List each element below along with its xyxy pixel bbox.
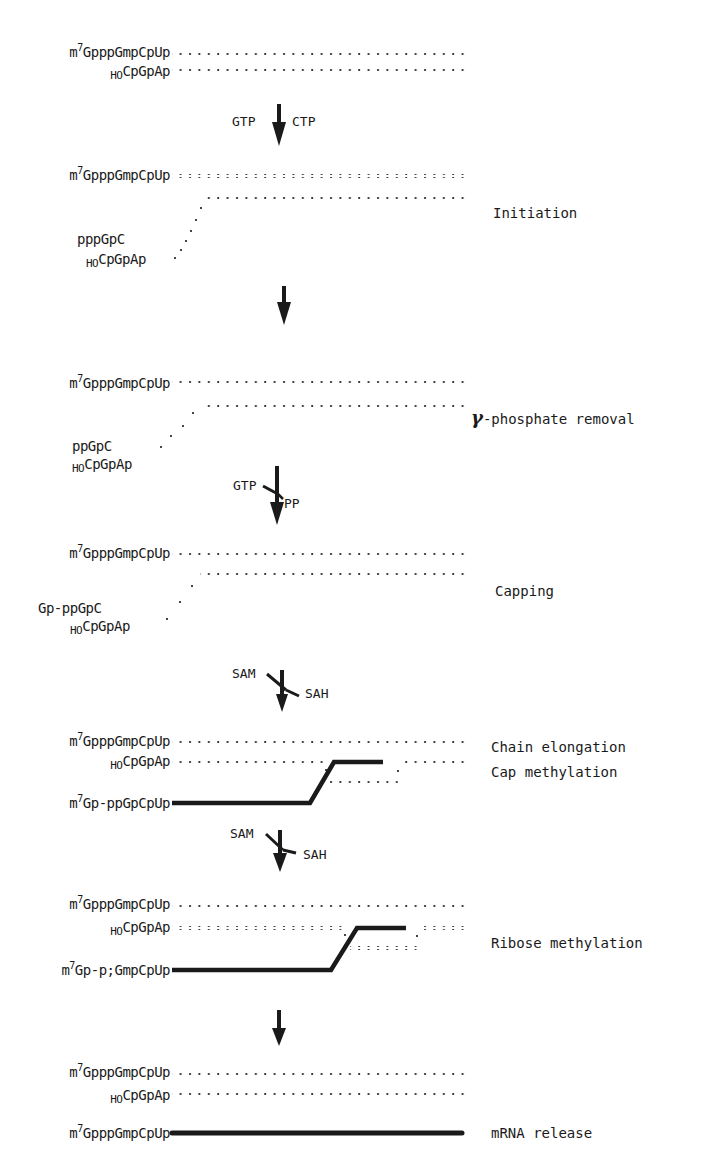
nascent-dots — [200, 573, 468, 577]
step-label-capping: Capping — [495, 583, 554, 599]
released-mrna-label: m7GpppGmpCpUp — [69, 1125, 170, 1143]
step-label-chain-elongation: Chain elongation — [491, 739, 626, 755]
template-strand-label: m7GpppGmpCpUp — [69, 44, 170, 62]
primer-label: HOCpGpAp — [110, 919, 170, 937]
primer-dots — [172, 760, 324, 764]
step-label-gamma-phosphate-removal: γ-phosphate removal — [471, 410, 635, 427]
nascent-rna-label: Gp-ppGpC — [38, 600, 101, 616]
product-strand-label: m7Gp-p;GmpCpUp — [61, 962, 170, 980]
template-strand-label: m7GpppGmpCpUp — [69, 733, 170, 751]
template-strand-dots — [172, 740, 468, 744]
template-strand-label: m7GpppGmpCpUp — [69, 1064, 170, 1082]
down-arrow-icon — [272, 1010, 286, 1046]
down-arrow-icon — [277, 286, 291, 325]
primer-label: HOCpGpAp — [72, 456, 132, 474]
primer-label: HOCpGpAp — [110, 63, 170, 81]
template-strand-dots — [172, 1072, 468, 1076]
step-label-mrna-release: mRNA release — [491, 1125, 592, 1141]
template-strand-dots — [172, 174, 468, 178]
primer-dots — [400, 760, 468, 764]
loop-dots — [350, 946, 418, 950]
loop-dots — [330, 780, 398, 784]
template-strand-dots — [172, 905, 468, 909]
template-strand-label: m7GpppGmpCpUp — [69, 545, 170, 563]
template-strand-dots — [172, 51, 468, 55]
template-strand-label: m7GpppGmpCpUp — [69, 375, 170, 393]
template-strand-label: m7GpppGmpCpUp — [69, 167, 170, 185]
nascent-rna-label: ppGpC — [72, 438, 112, 454]
primer-label: HOCpGpAp — [110, 1087, 170, 1105]
down-arrow-icon — [263, 466, 284, 525]
product-strand-label: m7Gp-ppGpCpUp — [69, 795, 170, 813]
step-label-ribose-methylation: Ribose methylation — [491, 935, 643, 951]
reagent-sah: SAH — [303, 847, 326, 863]
reagent-pp: PP — [284, 496, 300, 512]
nascent-rna-label: pppGpC — [77, 231, 125, 247]
reagent-sam: SAM — [232, 666, 255, 682]
reagent-sam: SAM — [230, 826, 253, 842]
step-label-cap-methylation: Cap methylation — [491, 764, 617, 780]
gamma-symbol: γ — [471, 407, 483, 428]
template-strand-dots — [172, 381, 468, 385]
down-arrow-icon — [272, 104, 286, 146]
reagent-ctp: CTP — [292, 114, 315, 130]
reagent-gtp: GTP — [232, 114, 255, 130]
step-label-initiation: Initiation — [493, 205, 577, 221]
reagent-sah: SAH — [305, 686, 328, 702]
primer-dots — [172, 1093, 468, 1097]
down-arrow-icon — [267, 670, 299, 712]
primer-dots — [172, 69, 468, 73]
down-arrow-icon — [266, 830, 296, 872]
nascent-dots — [204, 196, 468, 200]
reagent-gtp: GTP — [233, 478, 256, 494]
nascent-dots — [203, 404, 468, 408]
primer-dots — [420, 926, 468, 930]
primer-label: HOCpGpAp — [110, 753, 170, 771]
template-strand-dots — [172, 552, 468, 556]
primer-dots — [172, 926, 344, 930]
primer-label: HOCpGpAp — [70, 618, 130, 636]
template-strand-label: m7GpppGmpCpUp — [69, 896, 170, 914]
primer-label: HOCpGpAp — [86, 251, 146, 269]
